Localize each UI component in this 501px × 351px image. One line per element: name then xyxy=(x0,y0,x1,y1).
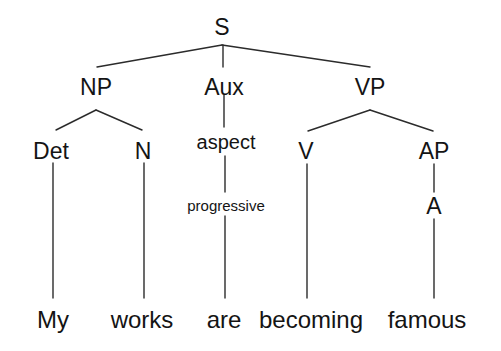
word-works: works xyxy=(111,308,174,332)
node-a: A xyxy=(426,195,441,218)
node-aux: Aux xyxy=(204,76,244,99)
tree-edges xyxy=(0,0,501,351)
node-v: V xyxy=(298,140,313,163)
syntax-tree-diagram: S NP Aux VP Det N aspect V AP progressiv… xyxy=(0,0,501,351)
node-ap: AP xyxy=(419,140,450,163)
node-progressive: progressive xyxy=(187,198,265,213)
word-my: My xyxy=(37,308,69,332)
node-s: S xyxy=(214,16,229,39)
node-n: N xyxy=(135,140,152,163)
edge-np-det xyxy=(56,110,96,130)
word-are: are xyxy=(207,308,242,332)
node-aspect: aspect xyxy=(197,132,256,152)
edge-s-vp xyxy=(222,45,370,67)
edge-vp-ap xyxy=(370,110,433,131)
edge-vp-v xyxy=(308,110,370,131)
edge-np-n xyxy=(96,110,142,130)
word-becoming: becoming xyxy=(259,308,363,332)
node-det: Det xyxy=(33,140,69,163)
node-np: NP xyxy=(80,76,112,99)
edge-s-np xyxy=(97,45,222,67)
node-vp: VP xyxy=(355,76,386,99)
word-famous: famous xyxy=(388,308,467,332)
